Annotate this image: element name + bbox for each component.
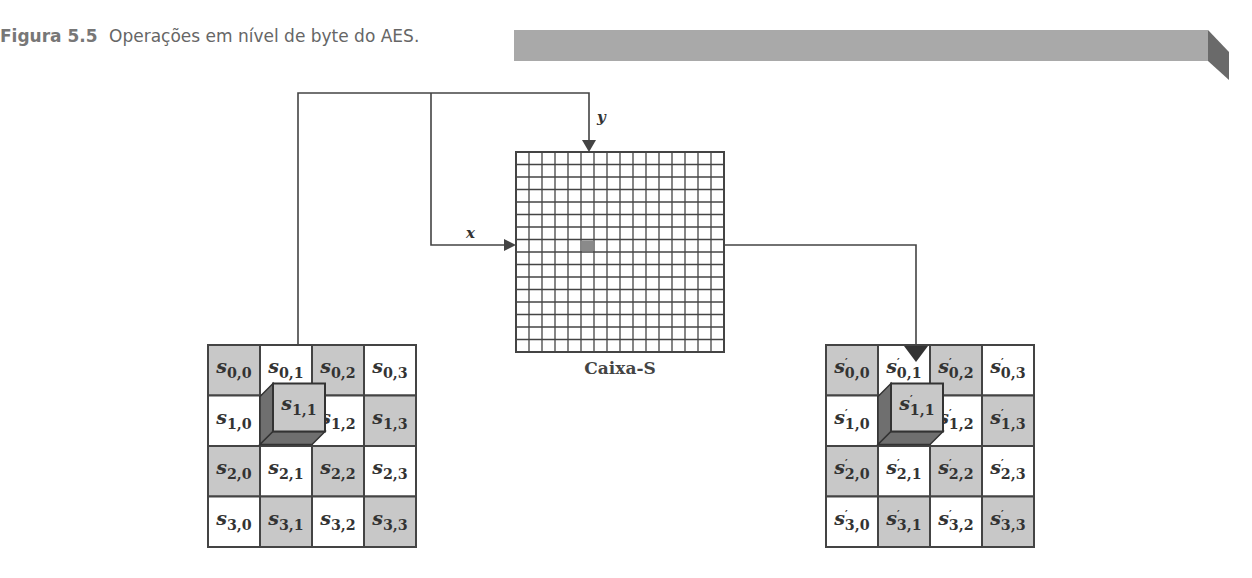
state-cell: s2,0 — [208, 446, 260, 497]
state-cell: s′3,0 — [826, 497, 878, 548]
state-cell: s3,0 — [208, 497, 260, 548]
wire-output — [724, 245, 916, 346]
aes-byte-operations-diagram: Caixa-S y x s0,0s0,1s0,2s0,3s1,0s1,1s1,2… — [0, 0, 1252, 578]
state-cell: s1,3 — [364, 396, 416, 447]
state-cell: s2,3 — [364, 446, 416, 497]
state-cell: s3,2 — [312, 497, 364, 548]
state-cell: s′3,2 — [930, 497, 982, 548]
state-cell: s3,3 — [364, 497, 416, 548]
output-state-matrix: s′0,0s′0,1s′0,2s′0,3s′1,0s′1,1s′1,2s′1,3… — [826, 345, 1034, 547]
arrow-x-icon — [504, 239, 516, 251]
state-cell: s2,2 — [312, 446, 364, 497]
state-cell: s′1,3 — [982, 396, 1034, 447]
state-cell: s′2,3 — [982, 446, 1034, 497]
selected-byte-cube: s′1,1 — [878, 384, 943, 445]
label-x: x — [465, 224, 476, 242]
state-cell: s1,0 — [208, 396, 260, 447]
input-state-matrix: s0,0s0,1s0,2s0,3s1,0s1,1s1,2s1,3s2,0s2,1… — [208, 345, 416, 547]
banner-fold — [1208, 30, 1229, 80]
state-cell: s′1,0 — [826, 396, 878, 447]
label-y: y — [596, 108, 607, 126]
state-cell: s′3,1 — [878, 497, 930, 548]
state-cell: s′2,2 — [930, 446, 982, 497]
state-cell: s′0,3 — [982, 345, 1034, 396]
state-cell: s2,1 — [260, 446, 312, 497]
selected-byte-cube: s1,1 — [260, 384, 325, 445]
s-box-grid — [516, 152, 724, 352]
state-cell: s3,1 — [260, 497, 312, 548]
s-box-selected-cell — [582, 241, 593, 252]
state-cell: s′3,3 — [982, 497, 1034, 548]
arrow-y-icon — [582, 140, 596, 152]
wire-x — [431, 93, 505, 245]
state-cell: s′2,1 — [878, 446, 930, 497]
state-cell: s′2,0 — [826, 446, 878, 497]
s-box-label: Caixa-S — [584, 358, 656, 378]
state-cell: s0,3 — [364, 345, 416, 396]
state-cell: s0,0 — [208, 345, 260, 396]
state-cell: s′0,0 — [826, 345, 878, 396]
